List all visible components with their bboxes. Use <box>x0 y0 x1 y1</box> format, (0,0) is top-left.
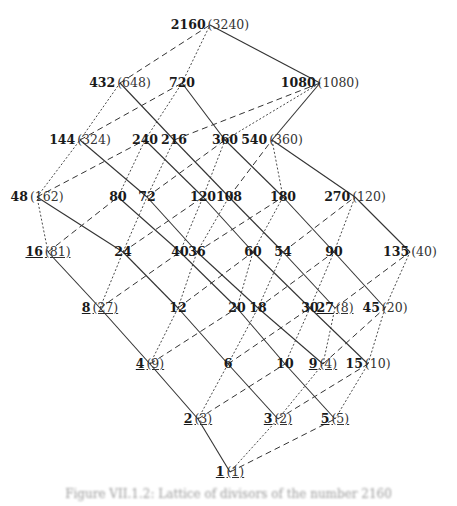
node-value: 6 <box>224 356 233 371</box>
node-alt-value: (324) <box>77 132 111 147</box>
node-alt-value: (81) <box>45 244 71 259</box>
node-value: 18 <box>249 300 266 315</box>
node-alt-value: (27) <box>93 300 119 315</box>
node-value: 10 <box>276 356 293 371</box>
lattice-node-1: 1(1) <box>216 465 244 479</box>
node-value: 90 <box>325 244 342 259</box>
node-value: 270 <box>324 189 350 204</box>
lattice-node-60: 60 <box>244 245 261 259</box>
node-value: 8 <box>82 300 91 315</box>
lattice-node-27: 27(8) <box>316 301 353 315</box>
lattice-node-9: 9(4) <box>309 357 337 371</box>
node-value: 720 <box>169 75 195 90</box>
node-value: 216 <box>161 132 187 147</box>
lattice-node-40: 40 <box>171 245 188 259</box>
lattice-node-72: 72 <box>138 190 155 204</box>
lattice-node-2160: 2160(3240) <box>171 18 249 32</box>
lattice-node-15: 15(10) <box>345 357 390 371</box>
node-value: 360 <box>212 132 238 147</box>
node-value: 54 <box>274 244 291 259</box>
node-value: 144 <box>49 132 75 147</box>
node-value: 60 <box>244 244 261 259</box>
node-value: 72 <box>138 189 155 204</box>
node-alt-value: (4) <box>319 356 337 371</box>
lattice-node-216: 216 <box>161 133 187 147</box>
node-value: 1 <box>216 464 225 479</box>
node-value: 15 <box>345 356 362 371</box>
lattice-node-20: 20 <box>228 301 245 315</box>
node-alt-value: (2) <box>274 411 292 426</box>
figure-caption: Figure VII.1.2: Lattice of divisors of t… <box>0 487 457 501</box>
lattice-node-1080: 1080(1080) <box>281 76 359 90</box>
node-value: 9 <box>309 356 318 371</box>
lattice-node-54: 54 <box>274 245 291 259</box>
node-value: 20 <box>228 300 245 315</box>
node-value: 27 <box>316 300 333 315</box>
lattice-node-16: 16(81) <box>25 245 70 259</box>
lattice-node-6: 6 <box>224 357 233 371</box>
node-value: 432 <box>89 75 115 90</box>
node-alt-value: (360) <box>269 132 303 147</box>
lattice-node-720: 720 <box>169 76 195 90</box>
lattice-node-180: 180 <box>270 190 296 204</box>
node-value: 240 <box>132 132 158 147</box>
lattice-node-135: 135(40) <box>383 245 437 259</box>
node-alt-value: (9) <box>146 356 164 371</box>
node-value: 24 <box>114 244 131 259</box>
lattice-node-45: 45(20) <box>362 301 407 315</box>
node-alt-value: (120) <box>352 189 386 204</box>
node-alt-value: (10) <box>365 356 391 371</box>
lattice-node-4: 4(9) <box>136 357 164 371</box>
lattice-node-120: 120 <box>190 190 216 204</box>
node-value: 108 <box>216 189 242 204</box>
lattice-node-360: 360 <box>212 133 238 147</box>
node-alt-value: (1) <box>226 464 244 479</box>
lattice-node-12: 12 <box>169 301 186 315</box>
node-value: 180 <box>270 189 296 204</box>
node-alt-value: (1080) <box>318 75 360 90</box>
lattice-node-2: 2(3) <box>184 412 212 426</box>
node-value: 16 <box>25 244 42 259</box>
node-alt-value: (3240) <box>208 17 250 32</box>
node-alt-value: (162) <box>30 189 64 204</box>
lattice-node-5: 5(5) <box>321 412 349 426</box>
node-value: 80 <box>109 189 126 204</box>
lattice-node-3: 3(2) <box>264 412 292 426</box>
node-value: 40 <box>171 244 188 259</box>
lattice-node-24: 24 <box>114 245 131 259</box>
node-value: 135 <box>383 244 409 259</box>
lattice-node-18: 18 <box>249 301 266 315</box>
lattice-node-432: 432(648) <box>89 76 151 90</box>
node-value: 36 <box>188 244 205 259</box>
edge-x5 <box>230 419 335 472</box>
lattice-node-240: 240 <box>132 133 158 147</box>
node-value: 5 <box>321 411 330 426</box>
node-alt-value: (40) <box>411 244 437 259</box>
lattice-node-80: 80 <box>109 190 126 204</box>
lattice-node-90: 90 <box>325 245 342 259</box>
node-value: 3 <box>264 411 273 426</box>
node-alt-value: (20) <box>382 300 408 315</box>
node-alt-value: (5) <box>331 411 349 426</box>
node-value: 45 <box>362 300 379 315</box>
lattice-node-108: 108 <box>216 190 242 204</box>
lattice-node-8: 8(27) <box>82 301 118 315</box>
lattice-node-10: 10 <box>276 357 293 371</box>
edge-x2 <box>178 308 228 364</box>
node-value: 2 <box>184 411 193 426</box>
node-alt-value: (648) <box>117 75 151 90</box>
lattice-node-270: 270(120) <box>324 190 386 204</box>
lattice-node-36: 36 <box>188 245 205 259</box>
node-alt-value: (8) <box>336 300 354 315</box>
node-alt-value: (3) <box>194 411 212 426</box>
node-value: 4 <box>136 356 145 371</box>
lattice-node-540: 540(360) <box>241 133 303 147</box>
edge-x5 <box>228 308 310 364</box>
lattice-node-144: 144(324) <box>49 133 111 147</box>
lattice-node-48: 48(162) <box>10 190 63 204</box>
node-value: 540 <box>241 132 267 147</box>
node-value: 120 <box>190 189 216 204</box>
node-value: 2160 <box>171 17 206 32</box>
node-value: 1080 <box>281 75 316 90</box>
node-value: 12 <box>169 300 186 315</box>
